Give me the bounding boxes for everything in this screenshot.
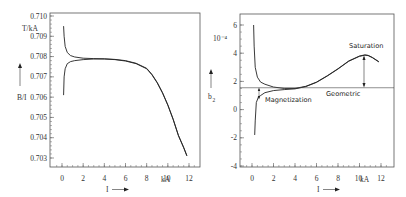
annotation-magnetization: Magnetization — [265, 96, 312, 104]
x-tick-label: 2 — [81, 174, 85, 183]
x-tick-label: 8 — [336, 174, 340, 183]
y-tick-label: 6 — [233, 21, 237, 30]
right-y-axis-subscript: 2 — [213, 97, 216, 103]
x-tick-label: 12 — [185, 174, 193, 183]
annotation-saturation: Saturation — [349, 42, 383, 50]
y-tick-label: 0.710 — [30, 12, 47, 21]
y-tick-label: 2 — [233, 77, 237, 86]
series-line — [64, 26, 187, 155]
left-plot-frame — [50, 13, 200, 167]
x-tick-label: 6 — [124, 174, 128, 183]
x-tick-label: 4 — [102, 174, 106, 183]
y-tick-label: 0.703 — [30, 154, 47, 163]
y-tick-label: -4 — [231, 162, 237, 171]
left-y-axis-label: B/I — [17, 93, 27, 102]
y-tick-label: 4 — [233, 49, 237, 58]
y-tick-label: 0.705 — [30, 113, 47, 122]
right-y-unit-label: 10⁻⁴ — [213, 34, 228, 43]
annotation-geometric: Geometric — [326, 90, 361, 98]
saturation-arrow — [363, 56, 366, 88]
y-tick-label: 0 — [233, 105, 237, 114]
x-tick-label: 0 — [250, 174, 254, 183]
left-x-unit-label: kA — [161, 175, 171, 184]
left-x-ticks: 024681012 — [57, 163, 195, 183]
right-x-unit-label: kA — [360, 175, 370, 184]
right-plot-frame — [240, 14, 394, 167]
figure-canvas: 0.7100.7090.7080.7070.7060.7050.7040.703… — [0, 0, 406, 197]
y-tick-label: 0.709 — [30, 32, 47, 41]
right-y-axis-arrow-icon — [209, 69, 213, 74]
right-y-ticks: 6420-2-4 — [231, 21, 244, 171]
x-tick-label: 12 — [377, 174, 385, 183]
left-x-axis-label: I — [106, 185, 109, 194]
right-chart: 6420-2-4 024681012 10⁻⁴ b 2 kA I Saturat… — [208, 14, 394, 194]
left-y-unit-label: T/kA — [22, 24, 38, 33]
x-tick-label: 8 — [145, 174, 149, 183]
y-tick-label: 0.704 — [30, 133, 47, 142]
arrow-up-icon — [363, 56, 366, 61]
left-y-ticks: 0.7100.7090.7080.7070.7060.7050.7040.703 — [30, 12, 54, 163]
right-x-axis-arrow-icon — [335, 188, 340, 192]
x-tick-label: 2 — [272, 174, 276, 183]
y-tick-label: 0.706 — [30, 93, 47, 102]
x-tick-label: 0 — [60, 174, 64, 183]
left-series — [64, 26, 187, 156]
right-x-axis-label: I — [317, 185, 320, 194]
left-chart: 0.7100.7090.7080.7070.7060.7050.7040.703… — [17, 12, 200, 195]
left-x-axis-arrow-icon — [124, 188, 129, 192]
left-y-axis-arrow-icon — [18, 63, 22, 68]
y-tick-label: 0.708 — [30, 52, 47, 61]
y-tick-label: 0.707 — [30, 72, 47, 81]
y-tick-label: -2 — [231, 133, 237, 142]
right-y-axis-label: b — [208, 92, 212, 101]
x-tick-label: 4 — [293, 174, 297, 183]
series-line — [254, 25, 379, 88]
x-tick-label: 6 — [315, 174, 319, 183]
arrow-down-icon — [363, 83, 366, 88]
